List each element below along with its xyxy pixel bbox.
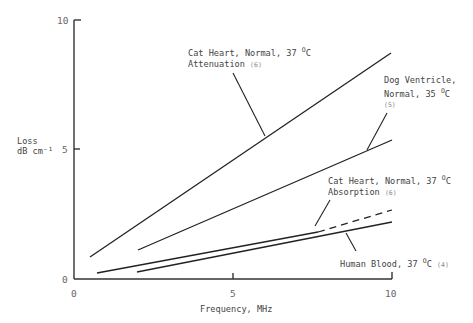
y-axis-label-line2: dB cm⁻¹: [17, 146, 53, 156]
x-tick-label-5: 5: [230, 288, 236, 299]
annotation-line1: Cat Heart, Normal, 37: [188, 48, 297, 58]
x-tick-label-10: 10: [385, 288, 397, 299]
degree-unit: C: [446, 176, 451, 186]
annotation-dog-ventricle: Dog Ventricle, Normal, 35 OC (5): [384, 75, 456, 111]
annotation-line1: Dog Ventricle,: [384, 75, 456, 86]
degree-unit: C: [445, 89, 450, 99]
y-axis-label-line1: Loss: [17, 136, 53, 146]
leader-dog-ventricle: [367, 113, 387, 150]
leader-cat-heart-absorption: [315, 200, 330, 226]
reference-number: (5): [384, 100, 456, 111]
leader-cat-heart-attenuation: [233, 73, 265, 136]
y-axis-label: Loss dB cm⁻¹: [17, 136, 53, 156]
annotation-line1: Cat Heart, Normal, 37: [328, 176, 437, 186]
annotation-cat-heart-absorption: Cat Heart, Normal, 37 OC Absorption (6): [328, 173, 451, 199]
y-tick-label-5: 5: [62, 144, 68, 155]
y-tick-label-10: 10: [57, 15, 69, 26]
series-cat-heart-attenuation: [90, 53, 391, 257]
reference-number: (4): [437, 261, 449, 269]
x-tick-label-0: 0: [71, 288, 77, 299]
degree-unit: C: [427, 259, 432, 269]
annotation-human-blood: Human Blood, 37 OC (4): [340, 256, 449, 271]
annotation-line2: Attenuation: [188, 59, 245, 69]
x-axis-label: Frequency, MHz: [200, 304, 272, 315]
annotation-line2: Normal, 35: [384, 89, 436, 99]
annotation-cat-heart-attenuation: Cat Heart, Normal, 37 OC Attenuation (6): [188, 45, 311, 71]
annotation-line1: Human Blood, 37: [340, 259, 418, 269]
degree-unit: C: [306, 48, 311, 58]
y-tick-label-0: 0: [62, 274, 68, 285]
series-cat-heart-absorption-solid: [97, 232, 318, 273]
annotation-line2: Absorption: [328, 187, 380, 197]
leader-human-blood: [346, 233, 356, 251]
reference-number: (6): [250, 61, 262, 69]
reference-number: (6): [385, 189, 397, 197]
